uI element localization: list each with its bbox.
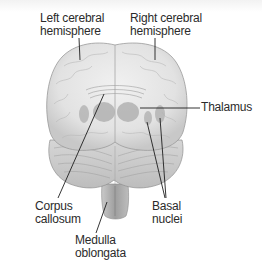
leader-medulla — [96, 202, 107, 233]
label-right-cerebral-hemisphere: Right cerebral hemisphere — [130, 12, 202, 38]
label-line: callosum — [35, 213, 81, 226]
brain-illustration — [0, 0, 262, 267]
label-medulla-oblongata: Medulla oblongata — [75, 234, 126, 260]
label-line: hemisphere — [40, 25, 104, 38]
label-thalamus: Thalamus — [201, 101, 252, 114]
medulla-oblongata-shape — [102, 184, 129, 219]
label-basal-nuclei: Basal nuclei — [152, 200, 182, 226]
label-line: Thalamus — [201, 101, 252, 114]
label-line: oblongata — [75, 247, 126, 260]
label-line: hemisphere — [130, 25, 202, 38]
label-left-cerebral-hemisphere: Left cerebral hemisphere — [40, 12, 104, 38]
label-corpus-callosum: Corpus callosum — [35, 200, 81, 226]
label-line: nuclei — [152, 213, 182, 226]
cerebrum-shape — [47, 43, 187, 150]
